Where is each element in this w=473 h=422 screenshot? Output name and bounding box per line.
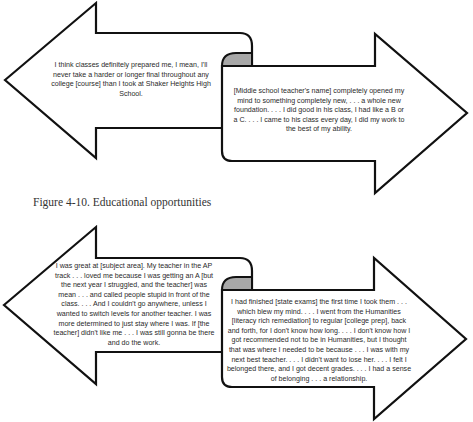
quote-left-top: I think classes definitely prepared me, … [48, 61, 214, 99]
figure-caption: Figure 4-10. Educational opportunities [33, 196, 211, 208]
quote-right-top: [Middle school teacher's name] completel… [232, 87, 406, 135]
curl-shade [222, 53, 252, 66]
curl-shade [222, 277, 252, 290]
arrow-diagram-top: I think classes definitely prepared me, … [0, 0, 473, 196]
arrow-diagram-bottom: I was great at [subject area]. My teache… [0, 222, 473, 422]
quote-left-bottom: I was great at [subject area]. My teache… [52, 262, 216, 348]
quote-right-bottom: I had finished [state exams] the first t… [226, 298, 412, 384]
